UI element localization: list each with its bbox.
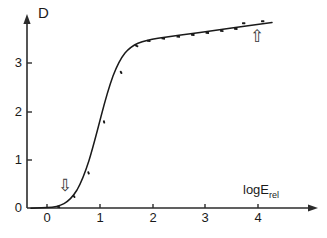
x-tick-label-1: 1: [92, 210, 108, 225]
x-axis-title: logErel: [243, 182, 279, 200]
down-arrow-icon: ⇩: [58, 177, 72, 194]
chart-figure: D logErel 0 1 2 3 4 0 1 2 3 ⇩ ⇧: [0, 0, 327, 238]
y-axis: [23, 14, 30, 208]
y-tick-label-1: 1: [8, 152, 22, 167]
x-tick-label-0: 0: [39, 210, 55, 225]
x-axis: [27, 204, 318, 211]
x-axis-title-subscript: rel: [269, 190, 279, 200]
x-axis-title-main: logE: [243, 182, 269, 197]
y-tick-label-0: 0: [8, 200, 22, 215]
up-arrow-icon: ⇧: [250, 28, 264, 45]
x-tick-label-3: 3: [197, 210, 213, 225]
chart-canvas: [0, 0, 327, 238]
y-axis-title: D: [38, 4, 49, 21]
x-tick-label-4: 4: [250, 210, 266, 225]
data-points-measured: [57, 20, 265, 208]
x-tick-label-2: 2: [145, 210, 161, 225]
y-tick-label-2: 2: [8, 104, 22, 119]
y-tick-label-3: 3: [8, 55, 22, 70]
